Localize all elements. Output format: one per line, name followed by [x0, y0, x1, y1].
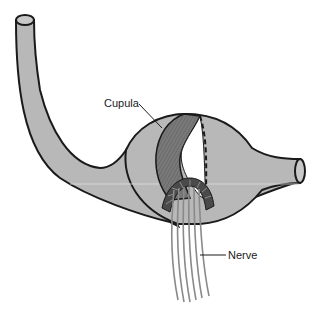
- ampulla-diagram: Cupula Nerve: [0, 0, 316, 311]
- nerve-label: Nerve: [228, 249, 257, 261]
- canal-opening-right: [295, 159, 305, 183]
- canal-opening-top: [16, 15, 34, 25]
- cupula-label: Cupula: [104, 97, 140, 109]
- nerve-label-group: Nerve: [200, 249, 257, 261]
- semicircular-canal: [16, 20, 300, 226]
